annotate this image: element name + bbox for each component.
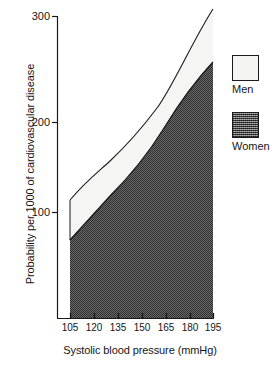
y-tick-label-300: 300 xyxy=(16,11,50,22)
chart-legend: Men Women xyxy=(232,55,280,153)
legend-swatch-men-icon xyxy=(232,55,259,81)
x-axis-title: Systolic blood pressure (mmHg) xyxy=(40,344,240,356)
x-tick-label-195: 195 xyxy=(198,322,228,333)
legend-label-women: Women xyxy=(232,140,280,153)
legend-swatch-women-icon xyxy=(232,112,259,138)
y-axis-title: Probability per 1000 of cardiovascular d… xyxy=(24,24,36,324)
legend-label-men: Men xyxy=(232,83,280,96)
legend-item-women: Women xyxy=(232,112,280,153)
legend-item-men: Men xyxy=(232,55,280,96)
chart-figure: 300 200 100 105 120 135 150 165 180 195 … xyxy=(0,0,280,365)
